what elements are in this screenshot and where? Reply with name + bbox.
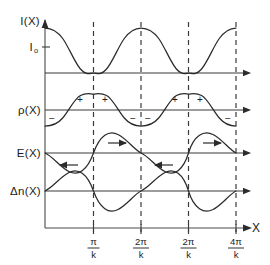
plus-sign-marker: +: [102, 94, 108, 105]
x-tick-label-1: π k: [88, 236, 100, 260]
panel-index-change: [45, 171, 251, 211]
plus-sign-marker: +: [172, 94, 178, 105]
x-tick-numerator: π: [90, 236, 97, 247]
sign-markers: + + − − − + + −: [49, 94, 231, 124]
panel-label-charge-density: ρ(X): [18, 104, 41, 116]
x-axis-label: X: [252, 221, 260, 235]
x-tick-numerator: 2π: [135, 236, 147, 247]
x-tick-numerator: 4π: [230, 236, 242, 247]
panel-electric-field: [45, 133, 251, 173]
minus-sign-marker: −: [49, 113, 55, 124]
plus-sign-marker: +: [77, 94, 83, 105]
x-tick-denominator: k: [139, 249, 144, 260]
index-change-axis-arrowhead: [243, 188, 251, 194]
x-tick-denominator: k: [186, 249, 191, 260]
panel-label-index-change: Δn(X): [10, 185, 41, 197]
x-tick-denominator: k: [91, 249, 96, 260]
panel-labels: I(X) I o ρ(X) E(X) Δn(X): [10, 15, 41, 197]
minus-sign-marker: −: [145, 113, 151, 124]
panel-label-intensity: I(X): [20, 15, 40, 27]
x-axis-arrowhead: [243, 225, 252, 232]
panel-label-intensity-reference: I: [30, 41, 34, 53]
panel-label-intensity-reference-subscript: o: [34, 46, 38, 55]
minus-sign-marker: −: [130, 113, 136, 124]
x-tick-numerator: 2π: [183, 236, 195, 247]
intensity-axis-arrowhead: [243, 70, 251, 76]
panel-intensity: [42, 28, 251, 76]
physics-waveform-figure: + + − − − + + − I(X) I o ρ(X) E(X) Δn(X): [0, 0, 270, 265]
x-tick-denominator: k: [234, 249, 239, 260]
y-axis-arrowhead: [42, 19, 49, 28]
electric-field-axis-arrowhead: [243, 150, 251, 156]
x-tick-label-3: 2π k: [181, 236, 197, 260]
charge-density-axis-arrowhead: [243, 107, 251, 113]
figure-container: + + − − − + + − I(X) I o ρ(X) E(X) Δn(X): [0, 0, 270, 265]
x-axis-ticks: π k 2π k 2π k 4π k X: [88, 221, 261, 260]
minus-sign-marker: −: [225, 113, 231, 124]
dashed-gridlines: [94, 22, 237, 234]
plus-sign-marker: +: [197, 94, 203, 105]
panel-label-electric-field: E(X): [17, 147, 41, 159]
x-tick-label-2: 2π k: [133, 236, 149, 260]
x-tick-label-4: 4π k: [228, 236, 244, 260]
